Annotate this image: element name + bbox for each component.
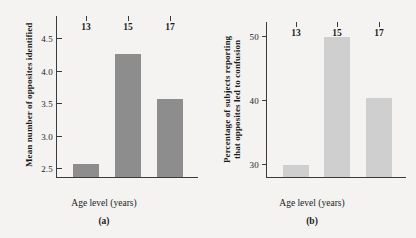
y-tick-label-a-2: 3.5 — [41, 99, 57, 109]
x-tick-label-a-1: 15 — [123, 22, 133, 32]
chart-panel-b: Percentage of subjects reporting that op… — [208, 0, 416, 238]
x-axis-title-a: Age level (years) — [0, 198, 208, 208]
bar-b-13 — [283, 165, 309, 177]
y-tick-label-a-3: 4.0 — [41, 67, 57, 77]
y-tick-label-b-1: 40 — [250, 96, 262, 106]
x-tick-b-2 — [379, 22, 380, 27]
x-tick-label-b-0: 13 — [291, 28, 301, 38]
y-axis-title-b-line1: Percentage of subjects reporting — [222, 16, 232, 182]
bar-b-15 — [324, 37, 350, 177]
chart-panel-a: Mean number of opposites identified 2.5 … — [0, 0, 208, 238]
bar-a-13 — [73, 164, 99, 177]
y-tick-label-a-4: 4.5 — [41, 34, 57, 44]
y-tick-b-2: 50 — [262, 36, 267, 37]
y-tick-a-0: 2.5 — [57, 168, 62, 169]
x-axis-title-b: Age level (years) — [208, 198, 416, 208]
y-tick-label-a-0: 2.5 — [41, 164, 57, 174]
figure-container: Mean number of opposites identified 2.5 … — [0, 0, 416, 238]
x-tick-b-1 — [337, 22, 338, 27]
y-axis-title-b: Percentage of subjects reporting that op… — [222, 16, 243, 182]
y-axis-title-a: Mean number of opposites identified — [24, 14, 34, 176]
x-tick-label-a-0: 13 — [81, 22, 91, 32]
y-tick-label-b-0: 30 — [250, 160, 262, 170]
y-tick-label-a-1: 3.0 — [41, 132, 57, 142]
bar-a-15 — [115, 54, 141, 177]
y-tick-a-4: 4.5 — [57, 38, 62, 39]
y-tick-a-3: 4.0 — [57, 71, 62, 72]
y-tick-b-1: 40 — [262, 100, 267, 101]
plot-area-a: 2.5 3.0 3.5 4.0 4.5 13 15 17 — [56, 16, 198, 178]
plot-area-b: 30 40 50 13 15 17 — [266, 22, 406, 178]
y-tick-a-1: 3.0 — [57, 136, 62, 137]
panel-caption-a: (a) — [0, 216, 208, 226]
x-tick-label-b-1: 15 — [332, 28, 342, 38]
x-tick-label-a-2: 17 — [165, 22, 175, 32]
y-axis-title-b-line2: that opposites led to confusion — [232, 16, 242, 182]
panel-caption-b: (b) — [208, 216, 416, 226]
y-tick-label-b-2: 50 — [250, 32, 262, 42]
x-tick-a-2 — [170, 16, 171, 21]
x-tick-a-0 — [86, 16, 87, 21]
bar-a-17 — [157, 99, 183, 177]
bar-b-17 — [366, 98, 392, 177]
y-tick-b-0: 30 — [262, 164, 267, 165]
x-tick-label-b-2: 17 — [374, 28, 384, 38]
y-tick-a-2: 3.5 — [57, 103, 62, 104]
x-tick-b-0 — [296, 22, 297, 27]
x-tick-a-1 — [128, 16, 129, 21]
